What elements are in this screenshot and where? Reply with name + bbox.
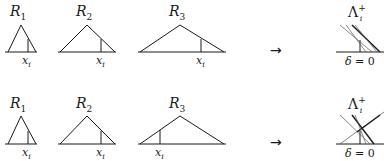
- top-r3-xi-label: xi: [196, 55, 205, 69]
- top-r3-label: R3: [169, 4, 185, 22]
- bottom-lambda-label: Λ+i: [348, 96, 362, 115]
- top-r1-xi-label: xi: [22, 55, 31, 69]
- top-lambda-fan: [336, 25, 384, 52]
- bottom-delta-label: δ = 0: [345, 148, 375, 159]
- top-lambda-label: Λ+i: [348, 4, 362, 23]
- bottom-r3-label: R3: [169, 96, 185, 114]
- top-r1-triangle: [5, 25, 37, 52]
- bottom-r2-label: R2: [76, 96, 92, 114]
- top-r2-label: R2: [76, 4, 92, 22]
- bottom-r2-triangle: [58, 116, 116, 144]
- top-delta-label: δ = 0: [345, 56, 375, 67]
- bottom-r2-xi-label: xi: [96, 147, 105, 161]
- bottom-r1-triangle: [5, 116, 37, 144]
- bottom-r1-xi-label: xi: [22, 147, 31, 161]
- top-r2-xi-label: xi: [96, 55, 105, 69]
- bottom-r1-label: R1: [10, 96, 26, 114]
- bottom-arrow: →: [270, 135, 282, 149]
- top-r1-label: R1: [10, 4, 26, 22]
- bottom-lambda-fan: [336, 112, 384, 144]
- top-arrow: →: [270, 43, 282, 57]
- bottom-r3-triangle: [138, 116, 226, 144]
- top-r3-triangle: [138, 25, 226, 52]
- top-r2-triangle: [58, 25, 116, 52]
- bottom-r3-xi-label: xi: [155, 147, 164, 161]
- diagram-canvas: [0, 0, 390, 161]
